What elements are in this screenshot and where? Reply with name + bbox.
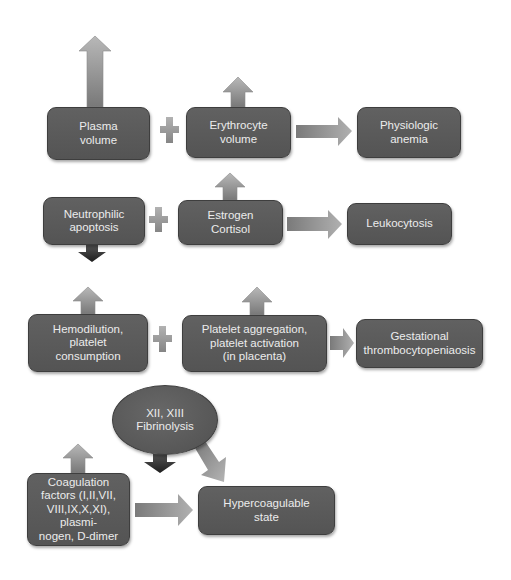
coagulation-factors-label: Coagulation factors (I,II,VII, VIII,IX,X… [32,476,125,544]
fibrinolysis-ellipse: XII, XIII Fibrinolysis [112,385,218,455]
right-arrow-icon [135,494,193,526]
hypercoagulable-state-box: Hypercoagulable state [198,486,335,535]
erythrocyte-volume-label: Erythrocyte volume [209,119,267,146]
plasma-volume-box: Plasma volume [47,107,150,160]
physiologic-anemia-box: Physiologic anemia [357,107,461,158]
up-arrow-icon [242,287,272,315]
coagulation-factors-box: Coagulation factors (I,II,VII, VIII,IX,X… [27,473,130,546]
neutrophilic-apoptosis-label: Neutrophilic apoptosis [64,208,125,235]
right-arrow-icon [296,117,352,146]
right-arrow-icon [330,328,354,358]
hemodilution-label: Hemodilution, platelet consumption [53,323,123,364]
leukocytosis-box: Leukocytosis [347,203,452,245]
right-arrow-icon [287,210,342,239]
up-arrow-icon [63,444,93,473]
estrogen-cortisol-box: Estrogen Cortisol [178,200,283,245]
hemodilution-box: Hemodilution, platelet consumption [28,314,148,372]
up-arrow-icon [73,287,103,314]
platelet-aggregation-label: Platelet aggregation, platelet activatio… [202,323,308,364]
physiologic-anemia-label: Physiologic anemia [380,119,438,146]
up-arrow-icon [215,173,245,200]
erythrocyte-volume-box: Erythrocyte volume [186,107,291,158]
diagonal-arrow-icon [195,441,226,482]
plus-icon [149,207,168,232]
plasma-volume-label: Plasma volume [79,120,117,147]
down-arrow-icon [78,245,106,262]
up-arrow-icon [223,77,253,107]
up-arrow-icon [79,36,111,107]
down-arrow-icon [144,454,176,473]
hypercoagulable-state-label: Hypercoagulable state [223,497,309,524]
plus-icon [160,117,179,143]
gestational-thrombocytopenia-box: Gestational thrombocytopeniaosis [356,319,483,368]
platelet-aggregation-box: Platelet aggregation, platelet activatio… [182,315,327,372]
gestational-thrombocytopenia-label: Gestational thrombocytopeniaosis [364,330,476,357]
plus-icon [153,326,172,352]
estrogen-cortisol-label: Estrogen Cortisol [207,209,253,236]
neutrophilic-apoptosis-box: Neutrophilic apoptosis [43,197,145,245]
fibrinolysis-label: XII, XIII Fibrinolysis [136,407,194,434]
pregnancy-hematology-diagram: Plasma volume Erythrocyte volume Physiol… [0,0,511,580]
leukocytosis-label: Leukocytosis [366,217,432,231]
